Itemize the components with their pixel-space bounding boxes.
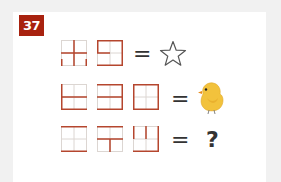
chick-icon xyxy=(198,80,226,120)
grid-3-1 xyxy=(61,126,87,152)
equation-row-3: = ? xyxy=(13,126,266,160)
grid-3-3 xyxy=(133,126,159,152)
star-outline-icon xyxy=(159,40,187,71)
grid-3-2 xyxy=(97,126,123,152)
equation-row-1: = xyxy=(13,40,266,74)
grid-1-2 xyxy=(97,40,123,66)
grid-2-3 xyxy=(133,84,159,110)
equals-sign: = xyxy=(171,86,189,112)
equals-sign: = xyxy=(171,127,189,153)
grid-2-2 xyxy=(97,84,123,110)
puzzle-card: 37 = xyxy=(13,12,266,182)
equals-sign: = xyxy=(133,41,151,67)
puzzle-number-badge: 37 xyxy=(19,15,44,36)
grid-2-1 xyxy=(61,84,87,110)
equation-row-2: = xyxy=(13,84,266,118)
grid-1-1 xyxy=(61,40,87,66)
question-mark: ? xyxy=(206,127,219,153)
